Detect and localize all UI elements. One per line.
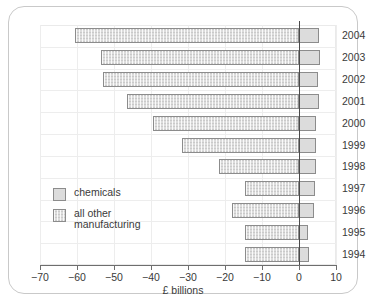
category-label-1997: 1997 — [342, 182, 365, 194]
category-label-2004: 2004 — [342, 29, 365, 41]
x-axis-tick — [262, 265, 263, 270]
x-axis-tick-label: −30 — [179, 271, 197, 283]
x-axis-tick-label: −10 — [253, 271, 271, 283]
horizontal-gridline — [40, 69, 336, 70]
bar-segment-chemicals — [299, 181, 315, 196]
vertical-gridline — [40, 25, 41, 265]
legend-swatch-all-other-manufacturing-icon — [53, 209, 66, 222]
bar-segment-chemicals — [299, 94, 319, 109]
horizontal-gridline — [40, 134, 336, 135]
category-label-2002: 2002 — [342, 73, 365, 85]
bar-segment-all-other-manufacturing — [245, 247, 299, 262]
zero-axis-line — [299, 21, 300, 269]
category-label-1994: 1994 — [342, 248, 365, 260]
category-label-2001: 2001 — [342, 95, 365, 107]
category-label-2000: 2000 — [342, 117, 365, 129]
x-axis-tick-label: 10 — [330, 271, 342, 283]
horizontal-gridline — [40, 178, 336, 179]
x-axis-tick-label: −50 — [105, 271, 123, 283]
bar-segment-chemicals — [299, 116, 316, 131]
bar-segment-all-other-manufacturing — [245, 181, 299, 196]
bar-segment-all-other-manufacturing — [232, 203, 299, 218]
x-axis-tick-label: 0 — [296, 271, 302, 283]
x-axis-tick-label: −20 — [216, 271, 234, 283]
horizontal-gridline — [40, 243, 336, 244]
bar-segment-chemicals — [299, 203, 314, 218]
x-axis-tick-label: −40 — [142, 271, 160, 283]
x-axis-title: £ billions — [9, 284, 357, 296]
horizontal-gridline — [40, 90, 336, 91]
x-axis-tick — [336, 265, 337, 270]
category-label-2003: 2003 — [342, 51, 365, 63]
x-axis-tick — [114, 265, 115, 270]
x-axis-tick — [188, 265, 189, 270]
x-axis-tick — [225, 265, 226, 270]
horizontal-gridline — [40, 47, 336, 48]
x-axis-tick-label: −70 — [31, 271, 49, 283]
x-axis-tick — [299, 265, 300, 270]
horizontal-gridline — [40, 112, 336, 113]
bar-segment-all-other-manufacturing — [75, 28, 299, 43]
horizontal-gridline — [40, 156, 336, 157]
chart-legend: chemicals all other manufacturing — [53, 187, 141, 240]
bar-segment-chemicals — [299, 72, 318, 87]
legend-item-all-other-manufacturing: all other manufacturing — [53, 208, 141, 231]
legend-label-all-other-manufacturing: all other manufacturing — [74, 208, 141, 231]
bar-segment-chemicals — [299, 28, 319, 43]
legend-item-chemicals: chemicals — [53, 187, 141, 199]
bar-segment-chemicals — [299, 247, 309, 262]
bar-segment-chemicals — [299, 50, 320, 65]
category-label-1998: 1998 — [342, 160, 365, 172]
x-axis-tick — [77, 265, 78, 270]
bar-segment-all-other-manufacturing — [153, 116, 299, 131]
bar-segment-chemicals — [299, 138, 316, 153]
category-label-1995: 1995 — [342, 226, 365, 238]
bar-segment-all-other-manufacturing — [245, 225, 299, 240]
bar-segment-all-other-manufacturing — [127, 94, 299, 109]
legend-label-chemicals: chemicals — [74, 187, 141, 199]
category-label-1996: 1996 — [342, 204, 365, 216]
x-axis-tick-label: −60 — [68, 271, 86, 283]
bar-segment-all-other-manufacturing — [182, 138, 299, 153]
bar-segment-all-other-manufacturing — [101, 50, 299, 65]
chart-card: −70−60−50−40−30−20−10010 200420032002200… — [8, 6, 358, 294]
category-label-1999: 1999 — [342, 139, 365, 151]
x-axis-tick — [40, 265, 41, 270]
bar-segment-all-other-manufacturing — [219, 159, 299, 174]
bar-segment-chemicals — [299, 159, 316, 174]
legend-swatch-chemicals-icon — [53, 188, 66, 201]
vertical-gridline — [336, 25, 337, 265]
x-axis-tick — [151, 265, 152, 270]
bar-segment-all-other-manufacturing — [103, 72, 299, 87]
